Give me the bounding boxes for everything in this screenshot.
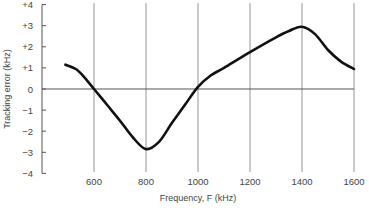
x-tick-label: 600	[86, 176, 102, 187]
y-tick-label: +4	[22, 0, 33, 10]
y-tick-label: −1	[22, 105, 33, 116]
y-tick-label: +1	[22, 62, 33, 73]
y-tick-label: −2	[22, 126, 33, 137]
y-axis: +4+3+2+10−1−2−3−4	[22, 0, 46, 179]
x-tick-label: 1600	[343, 176, 364, 187]
x-axis-title: Frequency, F (kHz)	[160, 193, 236, 203]
x-tick-label: 800	[138, 176, 154, 187]
x-axis-tick-labels: 6008001000120014001600	[86, 176, 365, 187]
x-tick-label: 1200	[239, 176, 260, 187]
y-tick-label: +2	[22, 41, 33, 52]
y-axis-title: Tracking error (kHz)	[2, 49, 12, 129]
x-tick-label: 1000	[187, 176, 208, 187]
y-tick-label: −4	[22, 168, 33, 179]
tracking-error-chart: +4+3+2+10−1−2−3−4 6008001000120014001600…	[0, 0, 369, 216]
y-tick-label: +3	[22, 20, 33, 31]
x-tick-label: 1400	[291, 176, 312, 187]
y-tick-label: 0	[28, 84, 33, 95]
y-tick-label: −3	[22, 147, 33, 158]
tracking-error-curve	[65, 27, 354, 149]
vertical-gridlines	[94, 3, 354, 172]
